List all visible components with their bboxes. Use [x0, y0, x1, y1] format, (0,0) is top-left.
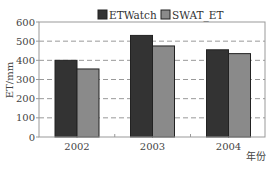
legend: ETWatchSWAT_ET	[98, 9, 223, 22]
x-axis-title: 年份	[246, 150, 266, 162]
bar-swat-et-2004	[229, 54, 251, 137]
legend-label: SWAT_ET	[172, 9, 223, 22]
y-tick-label: 400	[16, 55, 35, 66]
y-tick-label: 100	[16, 112, 35, 123]
bar-etwatch-2004	[207, 50, 229, 137]
y-tick-label: 0	[29, 132, 35, 143]
bar-swat-et-2002	[77, 69, 99, 137]
bar-swat-et-2003	[153, 46, 175, 137]
x-tick-label: 2002	[64, 141, 89, 152]
legend-label: ETWatch	[109, 9, 157, 21]
bar-etwatch-2003	[131, 35, 153, 137]
bar-etwatch-2002	[55, 60, 77, 137]
y-axis-title: ET/mm	[4, 61, 15, 98]
y-axis: 0100200300400500600	[16, 17, 39, 143]
y-tick-label: 300	[16, 74, 35, 85]
legend-swatch-etwatch	[98, 10, 107, 19]
legend-swatch-swat-et	[161, 10, 170, 19]
x-tick-label: 2003	[140, 141, 165, 152]
bar-chart: 0100200300400500600 200220032004 ET/mm 年…	[0, 0, 275, 170]
y-tick-label: 500	[16, 36, 35, 47]
y-tick-label: 200	[16, 93, 35, 104]
x-tick-label: 2004	[216, 141, 241, 152]
y-tick-label: 600	[16, 17, 35, 28]
bars	[55, 35, 251, 137]
